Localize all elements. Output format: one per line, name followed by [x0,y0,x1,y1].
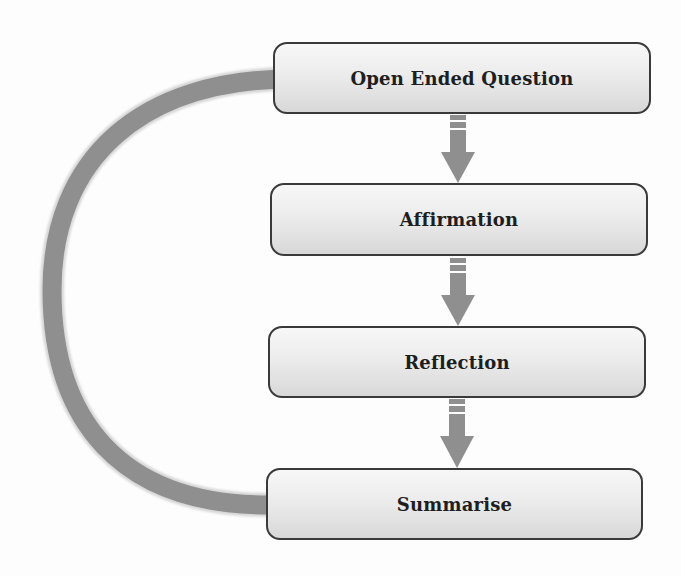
step-label: Affirmation [400,209,519,230]
loop-arrow-icon [52,62,324,505]
step-label: Reflection [404,352,510,373]
down-arrow-icon [441,258,475,326]
diagram-canvas: Open Ended Question Affirmation Reflecti… [0,0,681,576]
down-arrow-icon [441,115,475,183]
down-arrow-icon [440,399,474,468]
step-open-ended-question[interactable]: Open Ended Question [273,42,651,114]
step-reflection[interactable]: Reflection [268,326,646,398]
step-affirmation[interactable]: Affirmation [270,183,648,256]
step-summarise[interactable]: Summarise [266,468,643,540]
step-label: Open Ended Question [350,68,573,89]
step-label: Summarise [397,494,513,515]
